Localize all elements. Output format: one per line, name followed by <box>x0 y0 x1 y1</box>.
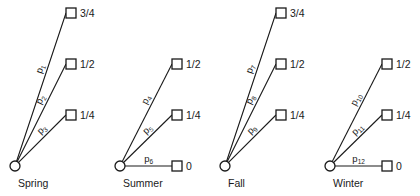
season-label: Spring <box>18 177 49 189</box>
season-root-circle-node <box>115 161 125 171</box>
branch-line <box>229 115 276 162</box>
tree-winter: 1/2p101/4p110p12Winter <box>325 58 411 189</box>
outcome-value-label: 1/2 <box>80 58 95 70</box>
outcome-square-node <box>66 8 76 18</box>
branch-line <box>332 64 382 162</box>
outcome-value-label: 0 <box>396 160 402 172</box>
outcome-square-node <box>382 59 392 69</box>
branch-probability-label: p12 <box>352 153 365 165</box>
outcome-square-node <box>172 161 182 171</box>
outcome-square-node <box>382 110 392 120</box>
season-root-circle-node <box>10 161 20 171</box>
branch-probability-label: p6 <box>144 153 153 165</box>
outcome-square-node <box>276 8 286 18</box>
outcome-square-node <box>276 59 286 69</box>
branch-line <box>334 115 382 162</box>
branch-line <box>17 64 66 162</box>
season-label: Winter <box>333 177 364 189</box>
branch-line <box>122 64 172 162</box>
outcome-value-label: 1/2 <box>186 58 201 70</box>
outcome-square-node <box>276 110 286 120</box>
branch-probability-label: p1 <box>33 62 47 75</box>
branch-probability-label: p7 <box>243 62 257 75</box>
tree-spring: 3/4p11/2p21/4p3Spring <box>10 7 95 189</box>
tree-fall: 3/4p71/2p81/4p9Fall <box>220 7 305 189</box>
season-label: Summer <box>123 177 163 189</box>
outcome-value-label: 0 <box>186 160 192 172</box>
outcome-value-label: 3/4 <box>290 7 305 19</box>
outcome-value-label: 1/2 <box>290 58 305 70</box>
outcome-square-node <box>66 110 76 120</box>
season-label: Fall <box>228 177 245 189</box>
outcome-square-node <box>172 110 182 120</box>
season-root-circle-node <box>325 161 335 171</box>
outcome-value-label: 1/4 <box>396 109 411 121</box>
outcome-value-label: 3/4 <box>80 7 95 19</box>
tree-summer: 1/2p41/4p50p6Summer <box>115 58 201 189</box>
outcome-value-label: 1/4 <box>80 109 95 121</box>
outcome-value-label: 1/2 <box>396 58 411 70</box>
outcome-square-node <box>172 59 182 69</box>
probability-tree-diagram: 3/4p11/2p21/4p3Spring1/2p41/4p50p6Summer… <box>0 0 420 196</box>
branch-probability-label: p10 <box>348 91 365 108</box>
outcome-square-node <box>382 161 392 171</box>
outcome-square-node <box>66 59 76 69</box>
outcome-value-label: 1/4 <box>290 109 305 121</box>
branch-line <box>19 115 66 162</box>
branch-line <box>227 64 276 162</box>
outcome-value-label: 1/4 <box>186 109 201 121</box>
season-root-circle-node <box>220 161 230 171</box>
